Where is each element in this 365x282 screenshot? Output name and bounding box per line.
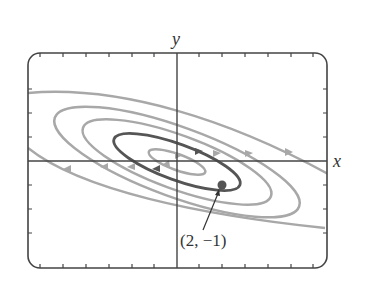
point-label: (2, −1) [180,231,226,250]
x-axis-label: x [332,151,341,171]
phase-plane-diagram: (2, −1) x y [0,0,365,282]
point-marker [218,181,227,190]
y-axis-label: y [170,29,180,49]
trajectories [28,85,330,240]
